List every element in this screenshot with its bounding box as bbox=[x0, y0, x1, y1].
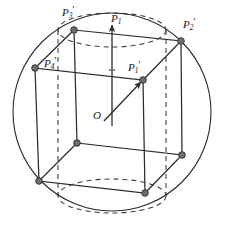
label-origin-base: O bbox=[93, 109, 101, 121]
label-p3-prime-base: P bbox=[62, 6, 69, 18]
label-p1: P1 bbox=[111, 13, 121, 24]
cube-edge-vertical-back-right bbox=[181, 41, 182, 155]
label-p1-prime-base: P bbox=[128, 61, 135, 73]
label-p2-prime-base: P bbox=[183, 18, 190, 30]
label-p2-prime: P2' bbox=[183, 19, 195, 30]
cube-bottom-face bbox=[39, 143, 182, 193]
label-p1-prime: P1' bbox=[128, 62, 140, 73]
cube-edge-vertical-back-left bbox=[74, 30, 77, 143]
vertex-p1-prime bbox=[140, 77, 147, 84]
p1-prime-vector-arrow bbox=[104, 82, 141, 121]
vertex-bottom-front-right bbox=[142, 190, 149, 197]
vertex-bottom-front-left bbox=[36, 178, 43, 185]
cube-top-face bbox=[35, 30, 181, 80]
vertex-bottom-back-right bbox=[179, 152, 186, 159]
cylinder-bottom-ellipse-dashed bbox=[58, 179, 166, 213]
label-p4-prime-base: P bbox=[44, 57, 51, 69]
label-p4-prime: P4' bbox=[44, 58, 56, 69]
vertex-p4-prime bbox=[32, 65, 39, 72]
vertex-bottom-back-left bbox=[74, 140, 81, 147]
label-p1-base: P bbox=[111, 12, 118, 24]
cube-edge-vertical-front-left bbox=[35, 68, 39, 181]
cube-edge-vertical-front-right bbox=[143, 80, 145, 193]
geometry-figure: P3' P2' P4' P1' P1 O bbox=[0, 0, 227, 230]
vertex-p3-prime bbox=[71, 27, 78, 34]
label-p1-sub: 1 bbox=[118, 17, 122, 26]
figure-canvas bbox=[0, 0, 227, 230]
label-p3-prime: P3' bbox=[62, 7, 74, 18]
vertex-p2-prime bbox=[178, 38, 185, 45]
label-origin: O bbox=[93, 110, 101, 121]
